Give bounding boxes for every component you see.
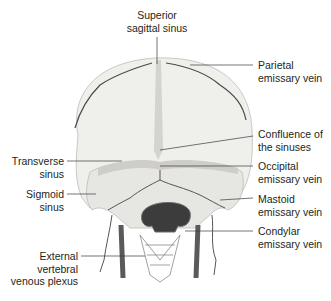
label-parietal-emissary-vein: Parietal emissary vein: [258, 59, 322, 84]
condylar-emissary-vein-path: [212, 215, 216, 275]
label-sigmoid-sinus: Sigmoid sinus: [0, 188, 64, 213]
label-condylar-emissary-vein: Condylar emissary vein: [258, 225, 322, 250]
label-mastoid-emissary-vein: Mastoid emissary vein: [258, 193, 322, 218]
right-jugular-vein: [196, 225, 198, 278]
label-confluence-of-sinuses: Confluence of the sinuses: [258, 128, 323, 153]
label-occipital-emissary-vein: Occipital emissary vein: [258, 160, 322, 185]
label-transverse-sinus: Transverse sinus: [0, 155, 64, 180]
label-superior-sagittal-sinus: Superior sagittal sinus: [112, 9, 202, 34]
mastoid-vein-left: [100, 215, 112, 272]
left-jugular-vein: [121, 225, 123, 278]
vertebral-venous-plexus: [140, 235, 180, 282]
label-external-vertebral-venous-plexus: External vertebral venous plexus: [0, 250, 78, 288]
